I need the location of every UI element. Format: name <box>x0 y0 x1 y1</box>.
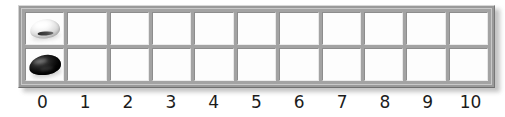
grid-cell-row0-col4[interactable] <box>194 12 233 45</box>
grid-cell-row0-col10[interactable] <box>449 12 488 45</box>
grid-cell-row0-col2[interactable] <box>110 12 149 45</box>
column-label-2: 2 <box>107 92 150 112</box>
grid-cell-row1-col4[interactable] <box>194 48 233 81</box>
grid-cell-matrix <box>25 12 488 81</box>
grid-row-bottom <box>25 48 488 81</box>
column-label-4: 4 <box>192 92 235 112</box>
column-label-8: 8 <box>364 92 407 112</box>
column-label-10: 10 <box>449 92 492 112</box>
column-label-6: 6 <box>278 92 321 112</box>
grid-row-top <box>25 12 488 45</box>
grid-frame <box>18 5 495 88</box>
grid-cell-row0-col3[interactable] <box>152 12 191 45</box>
column-label-1: 1 <box>64 92 107 112</box>
grid-cell-row1-col7[interactable] <box>322 48 361 81</box>
grid-cell-row1-col10[interactable] <box>449 48 488 81</box>
counting-grid-illustration: 0 1 2 3 4 5 6 7 8 9 10 <box>0 0 505 117</box>
grid-cell-row0-col9[interactable] <box>406 12 445 45</box>
column-label-9: 9 <box>406 92 449 112</box>
grid-cell-row1-col6[interactable] <box>279 48 318 81</box>
grid-cell-row0-col7[interactable] <box>322 12 361 45</box>
grid-cell-row0-col0[interactable] <box>25 12 64 45</box>
dark-bean-icon <box>27 52 62 77</box>
column-label-0: 0 <box>21 92 64 112</box>
grid-cell-row1-col1[interactable] <box>67 48 106 81</box>
column-label-7: 7 <box>321 92 364 112</box>
grid-cell-row0-col8[interactable] <box>364 12 403 45</box>
column-label-5: 5 <box>235 92 278 112</box>
column-number-labels: 0 1 2 3 4 5 6 7 8 9 10 <box>21 92 492 112</box>
grid-cell-row1-col8[interactable] <box>364 48 403 81</box>
grid-cell-row0-col6[interactable] <box>279 12 318 45</box>
grid-cell-row1-col5[interactable] <box>237 48 276 81</box>
grid-frame-inner-bevel <box>21 8 492 85</box>
grid-cell-row0-col5[interactable] <box>237 12 276 45</box>
grid-cell-row1-col2[interactable] <box>110 48 149 81</box>
light-bean-icon <box>29 17 61 40</box>
grid-cell-row1-col3[interactable] <box>152 48 191 81</box>
grid-cell-row0-col1[interactable] <box>67 12 106 45</box>
grid-cell-row1-col9[interactable] <box>406 48 445 81</box>
column-label-3: 3 <box>149 92 192 112</box>
grid-cell-row1-col0[interactable] <box>25 48 64 81</box>
